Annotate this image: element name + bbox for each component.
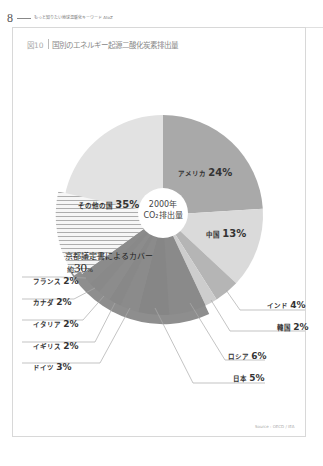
label-others: その他の国 35% [78, 199, 139, 210]
label-japan: 日本 5% [233, 373, 265, 383]
label-india: インド 4% [267, 300, 306, 310]
label-usa: アメリカ 24% [178, 167, 232, 178]
label-russia: ロシア 6% [228, 351, 267, 361]
pie-chart [0, 0, 323, 466]
label-korea: 韓国 2% [277, 322, 309, 332]
label-uk: イギリス 2% [33, 341, 79, 351]
kyoto-coverage-value: 約30% [67, 260, 93, 276]
label-germany: ドイツ 3% [33, 362, 72, 372]
label-italy: イタリア 2% [33, 319, 79, 329]
center-label: 2000年 CO₂排出量 [138, 199, 188, 221]
label-china: 中国 13% [206, 228, 246, 239]
label-canada: カナダ 2% [33, 297, 72, 307]
label-france: フランス 2% [33, 276, 79, 286]
source-note: Source : OECD / IEA [255, 424, 295, 429]
